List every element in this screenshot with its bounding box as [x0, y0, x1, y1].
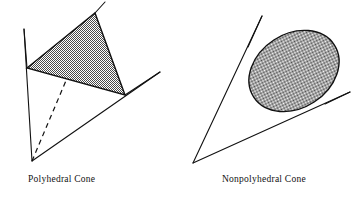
cone-figure-canvas	[0, 0, 363, 199]
polyhedral-shaded-triangle	[27, 13, 125, 95]
figure-root: Polyhedral Cone Nonpolyhedral Cone	[0, 0, 363, 199]
polyhedral-top-ray-tip	[95, 2, 105, 13]
polyhedral-cone-panel	[24, 2, 160, 161]
nonpolyhedral-cone-panel	[193, 14, 354, 163]
nonpolyhedral-shaded-ellipse	[234, 14, 355, 128]
nonpolyhedral-right-ray-tip	[325, 92, 350, 104]
polyhedral-right-ray-tip	[125, 72, 160, 95]
nonpolyhedral-left-ray-tip	[248, 16, 262, 47]
